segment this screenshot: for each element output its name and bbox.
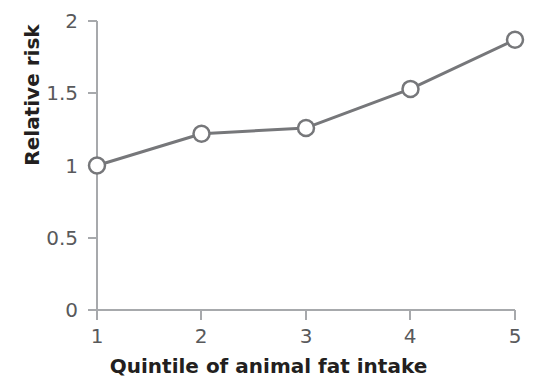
y-axis-tick-label-0-5: 0.5 [24,226,78,250]
data-point-markers [89,32,523,174]
y-axis-tick-label-0: 0 [34,298,78,322]
data-point-1 [89,158,105,174]
chart-container: 2 1.5 1 0.5 0 1 2 3 4 5 Relative risk Qu… [0,0,537,387]
x-axis-tick-label-5: 5 [500,324,530,348]
x-axis-tick-label-3: 3 [291,324,321,348]
x-axis-tick-label-1: 1 [82,324,112,348]
y-axis-title: Relative risk [17,0,47,205]
data-point-3 [298,120,314,136]
x-axis-tick-label-2: 2 [186,324,216,348]
data-point-5 [507,32,523,48]
line-chart-plot [0,0,537,387]
data-point-4 [403,81,419,97]
data-series-line [97,40,515,166]
data-point-2 [194,126,210,142]
x-axis-tick-label-4: 4 [395,324,425,348]
x-axis-title: Quintile of animal fat intake [0,354,537,378]
